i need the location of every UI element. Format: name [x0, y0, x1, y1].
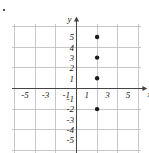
y-tick-label: 2	[70, 63, 75, 73]
y-tick-label: 5	[70, 32, 75, 42]
x-tick-label: 1	[85, 90, 90, 100]
x-tick-label: 5	[126, 90, 131, 100]
coordinate-plane-figure: -5-3-1135 54321-1-2-3-4-5 x y	[0, 0, 149, 153]
y-tick-label: -5	[67, 135, 75, 145]
data-point	[95, 35, 99, 39]
y-tick-label: -1	[67, 94, 75, 104]
y-tick-label: 3	[69, 53, 75, 63]
y-tick-label: 4	[70, 43, 75, 53]
y-axis-label: y	[67, 14, 72, 24]
y-tick-label: -2	[67, 104, 75, 114]
x-tick-label: 3	[104, 90, 110, 100]
x-axis-label: x	[146, 89, 149, 99]
y-tick-label: -3	[67, 115, 75, 125]
y-tick-label: 1	[70, 74, 75, 84]
x-tick-label: -3	[42, 90, 50, 100]
data-point	[95, 55, 99, 59]
y-tick-label: -4	[67, 125, 75, 135]
scatter-plot-svg: -5-3-1135 54321-1-2-3-4-5 x y	[0, 0, 149, 153]
data-point	[95, 107, 99, 111]
x-tick-label: -5	[21, 90, 29, 100]
data-point	[95, 76, 99, 80]
